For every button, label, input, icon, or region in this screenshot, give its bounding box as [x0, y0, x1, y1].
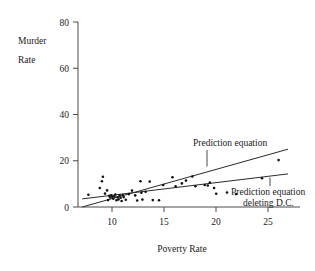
- y-tick-labels: 0 20 40 60 80: [60, 18, 70, 213]
- data-point: [128, 193, 131, 196]
- data-point: [102, 175, 105, 178]
- y-axis-label-line1: Murder: [18, 36, 47, 46]
- data-point: [152, 199, 155, 202]
- data-point: [125, 199, 128, 202]
- prediction-equation-label: Prediction equation: [193, 138, 267, 148]
- data-point: [181, 182, 184, 185]
- data-point: [131, 189, 134, 192]
- y-tick-label-80: 80: [60, 18, 70, 28]
- data-point: [114, 193, 117, 196]
- y-tick-label-0: 0: [64, 203, 69, 213]
- data-point: [101, 180, 104, 183]
- prediction-equation-deleting-dc-label-line1: Prediction equation: [231, 187, 305, 197]
- data-point: [185, 179, 188, 182]
- data-point-dc-outlier: [277, 159, 280, 162]
- data-point: [158, 199, 161, 202]
- x-tick-labels: 10 15 20 25: [107, 217, 273, 227]
- scatterplot-figure: 0 20 40 60 80 10 15 20 25 Murder Rate Po…: [0, 0, 315, 271]
- data-point: [141, 198, 144, 201]
- y-axis-label-line2: Rate: [18, 55, 35, 65]
- data-point: [87, 193, 90, 196]
- data-point: [122, 196, 125, 199]
- data-point: [104, 192, 107, 195]
- chart-canvas: 0 20 40 60 80 10 15 20 25 Murder Rate Po…: [0, 0, 315, 271]
- data-point: [215, 193, 218, 196]
- x-tick-label-25: 25: [263, 217, 273, 227]
- data-point: [213, 187, 216, 190]
- data-point: [107, 199, 110, 202]
- prediction-equation-deleting-dc-label-line2: deleting D.C.: [243, 198, 294, 208]
- x-tick-label-20: 20: [211, 217, 221, 227]
- data-point: [120, 200, 123, 203]
- data-point: [171, 176, 174, 179]
- data-point: [140, 191, 143, 194]
- data-point: [117, 198, 120, 201]
- data-point: [139, 180, 142, 183]
- y-tick-label-60: 60: [60, 64, 70, 74]
- data-point: [191, 175, 194, 178]
- data-point: [106, 189, 109, 192]
- axes-group: [78, 22, 300, 207]
- data-point: [174, 185, 177, 188]
- prediction-equation-deleting-dc-annotation: Prediction equation deleting D.C.: [226, 178, 306, 209]
- data-point: [136, 199, 139, 202]
- y-tick-label-40: 40: [60, 110, 70, 120]
- x-tick-label-15: 15: [159, 217, 169, 227]
- data-point: [148, 180, 151, 183]
- y-tick-label-20: 20: [60, 156, 70, 166]
- data-point: [162, 184, 165, 187]
- x-tick-label-10: 10: [107, 217, 117, 227]
- y-tick-marks: [73, 22, 78, 207]
- data-point: [209, 181, 212, 184]
- data-point: [118, 194, 121, 197]
- data-point: [203, 184, 206, 187]
- data-point: [112, 197, 115, 200]
- data-point: [261, 177, 264, 180]
- x-axis-label: Poverty Rate: [157, 244, 206, 254]
- data-point: [99, 187, 102, 190]
- prediction-equation-annotation: Prediction equation: [193, 138, 267, 167]
- annotation-marker-dot: [226, 191, 229, 194]
- data-point: [134, 194, 137, 197]
- data-point: [194, 185, 197, 188]
- data-point: [144, 190, 147, 193]
- data-point: [119, 197, 122, 200]
- data-point: [207, 184, 210, 187]
